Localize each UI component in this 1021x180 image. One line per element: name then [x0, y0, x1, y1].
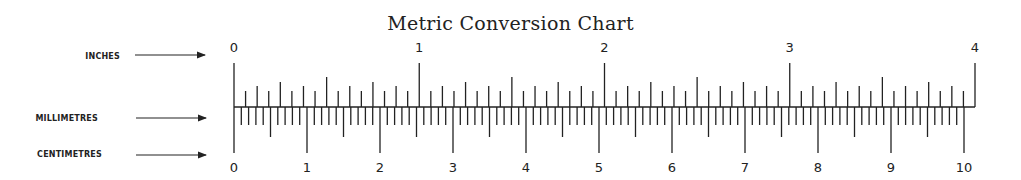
cm-label: 2: [376, 160, 384, 175]
cm-label: 7: [741, 160, 749, 175]
cm-label: 5: [595, 160, 603, 175]
cm-label: 0: [230, 160, 238, 175]
cm-label: 3: [449, 160, 457, 175]
inch-label: 3: [786, 40, 794, 55]
cm-label: 6: [668, 160, 676, 175]
inch-label: 2: [600, 40, 608, 55]
cm-label: 8: [814, 160, 822, 175]
inch-label: 1: [415, 40, 423, 55]
cm-label: 10: [956, 160, 973, 175]
cm-label: 9: [887, 160, 895, 175]
arrows: [135, 55, 206, 155]
inch-label: 0: [230, 40, 238, 55]
ruler-diagram: 01234012345678910: [0, 0, 1021, 180]
cm-label: 1: [303, 160, 311, 175]
inch-label: 4: [971, 40, 979, 55]
cm-label: 4: [522, 160, 530, 175]
